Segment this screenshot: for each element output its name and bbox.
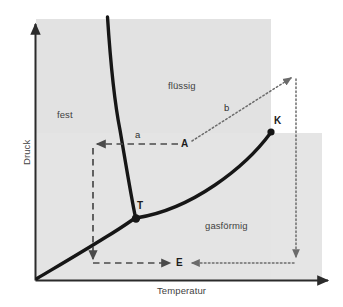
triple-point-marker	[132, 214, 140, 222]
point-label-state-e: E	[176, 258, 183, 268]
y-axis-label: Druck	[22, 140, 32, 165]
plot-background	[36, 19, 322, 280]
phase-diagram-figure: fest flüssig gasförmig T K A E a b Druck…	[0, 0, 343, 307]
region-label-fest: fest	[57, 110, 73, 120]
path-label-b: b	[224, 103, 229, 113]
region-label-gasfoermig: gasförmig	[205, 221, 248, 231]
point-label-critical-k: K	[274, 116, 281, 126]
critical-point-marker	[267, 128, 274, 135]
path-label-a: a	[135, 130, 140, 140]
point-label-triple-t: T	[137, 201, 143, 211]
phase-diagram-canvas	[0, 0, 343, 307]
point-label-state-a: A	[181, 139, 188, 149]
region-label-fluessig: flüssig	[168, 81, 196, 91]
x-axis-label: Temperatur	[157, 286, 206, 296]
